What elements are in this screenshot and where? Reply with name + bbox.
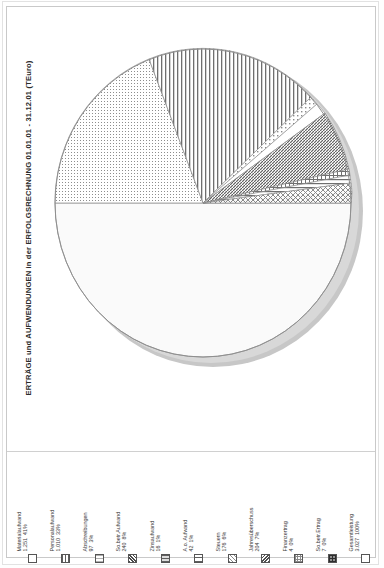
legend-label-value: 16 1%	[154, 467, 160, 551]
pie-chart-svg	[53, 35, 365, 375]
legend-label: Gesamtleistung 3.027 100%	[348, 467, 360, 551]
pie-slices	[55, 48, 352, 357]
legend-swatch-horizontal-lines	[194, 554, 203, 563]
legend-swatch-grid-dark	[161, 554, 170, 563]
legend-swatch-empty	[361, 554, 370, 563]
chart-legend: Materialaufwand 1.251 41% Personalaufwan…	[14, 455, 382, 563]
legend-swatch-diagonal-dense	[261, 554, 270, 563]
legend-item-materialaufwand[interactable]: Materialaufwand 1.251 41%	[16, 459, 49, 563]
legend-label-box: Steuern 176 6%	[216, 465, 249, 551]
legend-label-value: 1.251 41%	[21, 467, 27, 551]
legend-label: So.betr.Ertrag 7 0%	[315, 467, 327, 551]
legend-item-zinsaufwand[interactable]: Zinsaufwand 16 1%	[149, 459, 182, 563]
legend-item-finanzertrag[interactable]: Finanzertrag 4 0%	[282, 459, 315, 563]
pie-slice-gesamtleistung[interactable]	[55, 203, 351, 357]
section-divider	[7, 451, 375, 452]
legend-swatch-dots-medium	[294, 554, 303, 563]
legend-label: Zinsaufwand 16 1%	[148, 467, 160, 551]
legend-item-gesamtleistung[interactable]: Gesamtleistung 3.027 100%	[349, 459, 382, 563]
legend-label-box: A.o. Aufwand 42 1%	[182, 465, 215, 551]
legend-label-name: Zinsaufwand	[148, 467, 154, 551]
chart-area	[41, 17, 377, 437]
page-frame: ERTRÄGE und AUFWENDUNGEN in der ERFOLGSR…	[6, 6, 376, 558]
legend-label-box: Abschreibungen 97 3%	[83, 465, 116, 551]
legend-label-box: So.betr.Aufwand 240 8%	[116, 465, 149, 551]
legend-label: Personalaufwand 1.010 33%	[48, 467, 60, 551]
legend-label: Steuern 176 6%	[215, 467, 227, 551]
legend-label-box: So.betr.Ertrag 7 0%	[316, 465, 349, 551]
legend-label-name: Finanzertrag	[281, 467, 287, 551]
legend-label-name: Personalaufwand	[48, 467, 54, 551]
legend-label-value: 42 1%	[188, 467, 194, 551]
legend-label: Abschreibungen 97 3%	[82, 467, 94, 551]
chart-title-container: ERTRÄGE und AUFWENDUNGEN in der ERFOLGSR…	[15, 13, 41, 443]
legend-label-box: Gesamtleistung 3.027 100%	[349, 465, 382, 551]
legend-label-value: 240 8%	[121, 467, 127, 551]
legend-item-so-betr-ertrag[interactable]: So.betr.Ertrag 7 0%	[315, 459, 348, 563]
legend-item-so-betr-aufwand[interactable]: So.betr.Aufwand 240 8%	[116, 459, 149, 563]
legend-label-box: Jahresüberschuss 204 7%	[249, 465, 282, 551]
legend-item-ao-aufwand[interactable]: A.o. Aufwand 42 1%	[182, 459, 215, 563]
legend-label: Finanzertrag 4 0%	[281, 467, 293, 551]
legend-label-value: 204 7%	[254, 467, 260, 551]
legend-label: Jahresüberschuss 204 7%	[248, 467, 260, 551]
legend-swatch-checker-dark	[128, 554, 137, 563]
legend-label: A.o. Aufwand 42 1%	[182, 467, 194, 551]
legend-swatch-dots-sparse	[95, 554, 104, 563]
legend-label-value: 3.027 100%	[354, 467, 360, 551]
legend-label-box: Materialaufwand 1.251 41%	[16, 465, 49, 551]
legend-label-name: Materialaufwand	[15, 467, 21, 551]
legend-swatch-vertical-lines	[61, 554, 70, 563]
legend-label-box: Zinsaufwand 16 1%	[149, 465, 182, 551]
legend-swatch-cross-hatch	[228, 554, 237, 563]
legend-item-abschreibungen[interactable]: Abschreibungen 97 3%	[83, 459, 116, 563]
legend-label-value: 7 0%	[321, 467, 327, 551]
legend-item-jahresueberschuss[interactable]: Jahresüberschuss 204 7%	[249, 459, 282, 563]
legend-label-value: 97 3%	[88, 467, 94, 551]
legend-item-steuern[interactable]: Steuern 176 6%	[216, 459, 249, 563]
legend-item-personalaufwand[interactable]: Personalaufwand 1.010 33%	[49, 459, 82, 563]
legend-label-value: 1.010 33%	[55, 467, 61, 551]
legend-label-value: 176 6%	[221, 467, 227, 551]
report-page: ERTRÄGE und AUFWENDUNGEN in der ERFOLGSR…	[0, 0, 384, 568]
page-title: ERTRÄGE und AUFWENDUNGEN in der ERFOLGSR…	[24, 13, 33, 443]
pie-chart	[53, 35, 365, 375]
legend-swatch-dots-fine	[28, 554, 37, 563]
legend-swatch-solid-dark-grid	[328, 554, 337, 563]
legend-label-box: Personalaufwand 1.010 33%	[49, 465, 82, 551]
legend-label: So.betr.Aufwand 240 8%	[115, 467, 127, 551]
legend-label-value: 4 0%	[288, 467, 294, 551]
legend-label-box: Finanzertrag 4 0%	[282, 465, 315, 551]
legend-label: Materialaufwand 1.251 41%	[15, 467, 27, 551]
